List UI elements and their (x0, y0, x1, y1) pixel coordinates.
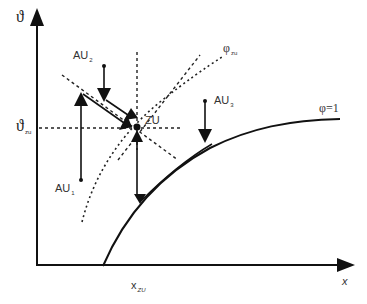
au1-sub: 1 (71, 190, 74, 196)
au2-symbol: AU (73, 49, 88, 61)
au2-sub: 2 (89, 57, 92, 63)
phi-zu-label: φzu (223, 42, 237, 56)
x-axis-label: x (342, 276, 348, 287)
zu-point (134, 124, 141, 131)
x-axis (36, 258, 355, 272)
y-axis-label: ϑ (16, 9, 24, 25)
x-tick-x-zu: xZU (131, 280, 146, 293)
au1-symbol: AU (55, 182, 70, 194)
reference-lines (39, 52, 200, 160)
au1-label: AU1 (55, 183, 75, 196)
au3-trajectory (198, 99, 212, 143)
y-tick-theta-zu: ϑzu (16, 118, 31, 135)
au2-trajectory (97, 64, 138, 120)
y-tick-sub: zu (25, 129, 31, 135)
au1-trajectory (74, 92, 132, 182)
phi-zu-symbol: φ (223, 41, 230, 55)
y-tick-symbol: ϑ (16, 117, 24, 134)
au3-label: AU3 (214, 95, 234, 108)
zu-label: ZU (145, 115, 160, 126)
x-tick-sub: ZU (138, 287, 146, 293)
y-axis (30, 8, 44, 266)
diagram-canvas (0, 0, 367, 304)
au3-symbol: AU (214, 94, 229, 106)
diagonal-line-2 (118, 55, 200, 160)
au2-label: AU2 (73, 50, 93, 63)
au3-sub: 3 (230, 102, 233, 108)
zu-vertical-trajectory (131, 130, 146, 204)
diagonal-line-1 (62, 75, 178, 160)
phi-one-label: φ=1 (319, 102, 339, 114)
phi-zu-sub: zu (231, 50, 237, 56)
x-tick-symbol: x (131, 279, 137, 291)
phi-zu-curve (82, 57, 222, 222)
